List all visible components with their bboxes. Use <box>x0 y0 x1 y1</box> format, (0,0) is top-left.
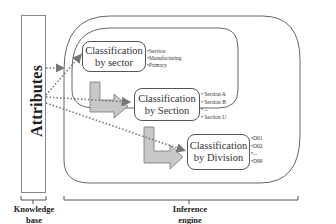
sector-list: •Service •Manufacturing •Primary <box>147 48 182 69</box>
attributes-label: Attributes <box>28 36 46 166</box>
section-list: • Section A • Section B • ... • Section … <box>201 91 226 121</box>
stage-label-line2: by Division <box>190 152 248 164</box>
list-item: • Section U <box>201 114 226 122</box>
classification-by-sector-box: Classification by sector <box>82 41 146 72</box>
stage-label-line2: by sector <box>85 57 143 69</box>
list-item: •Service <box>147 48 182 55</box>
list-item: • ... <box>201 106 226 114</box>
engine-bracket <box>64 196 298 204</box>
kb-bracket <box>21 196 46 204</box>
division-list: •D01 •D02 •... •D99 <box>251 135 262 165</box>
list-item: •Primary <box>147 62 182 69</box>
block-arrow-2 <box>144 127 183 169</box>
classification-by-division-box: Classification by Division <box>187 134 250 170</box>
caption-line1: Inference <box>160 204 220 215</box>
list-item: • Section A <box>201 91 226 99</box>
stage-label-line1: Classification <box>190 140 248 152</box>
list-item: •D02 <box>251 143 262 151</box>
list-item: •Manufacturing <box>147 55 182 62</box>
list-item: • Section B <box>201 99 226 107</box>
list-item: •D01 <box>251 135 262 143</box>
caption-line2: engine <box>160 215 220 224</box>
list-item: •... <box>251 150 262 158</box>
stage-label-line1: Classification <box>85 45 143 57</box>
classification-by-section-box: Classification by Section <box>134 88 200 121</box>
caption-line2: base <box>6 215 62 224</box>
list-item: •D99 <box>251 158 262 166</box>
inference-engine-caption: Inference engine <box>160 204 220 224</box>
knowledge-base-caption: Knowledge base <box>6 204 62 224</box>
dotted-arrow-to-sector-2 <box>46 56 80 95</box>
caption-line1: Knowledge <box>6 204 62 215</box>
stage-label-line1: Classification <box>138 93 196 105</box>
stage-label-line2: by Section <box>138 105 196 117</box>
